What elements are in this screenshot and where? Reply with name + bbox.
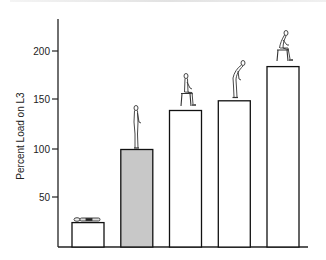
tick-label-150: 150 xyxy=(33,94,50,105)
bar-3 xyxy=(170,111,202,248)
figure-sitting-upright-icon xyxy=(181,74,196,107)
tick-label-200: 200 xyxy=(33,46,50,57)
bar-1 xyxy=(72,223,104,247)
tick-label-100: 100 xyxy=(33,144,50,155)
figure-lying-icon xyxy=(74,218,100,222)
figure-standing-bent-icon xyxy=(233,61,246,98)
figure-sitting-bent-icon xyxy=(277,31,293,62)
tick-label-50: 50 xyxy=(39,192,51,203)
bar-chart: 200 150 100 50 Percent Load on L3 xyxy=(0,0,326,260)
figure-standing-icon xyxy=(134,106,141,149)
bar-2 xyxy=(121,150,153,248)
y-tick-labels: 200 150 100 50 xyxy=(33,46,50,203)
y-axis-label: Percent Load on L3 xyxy=(15,92,26,180)
bar-4 xyxy=(218,101,250,247)
y-ticks xyxy=(52,51,58,197)
bar-5 xyxy=(267,67,299,247)
